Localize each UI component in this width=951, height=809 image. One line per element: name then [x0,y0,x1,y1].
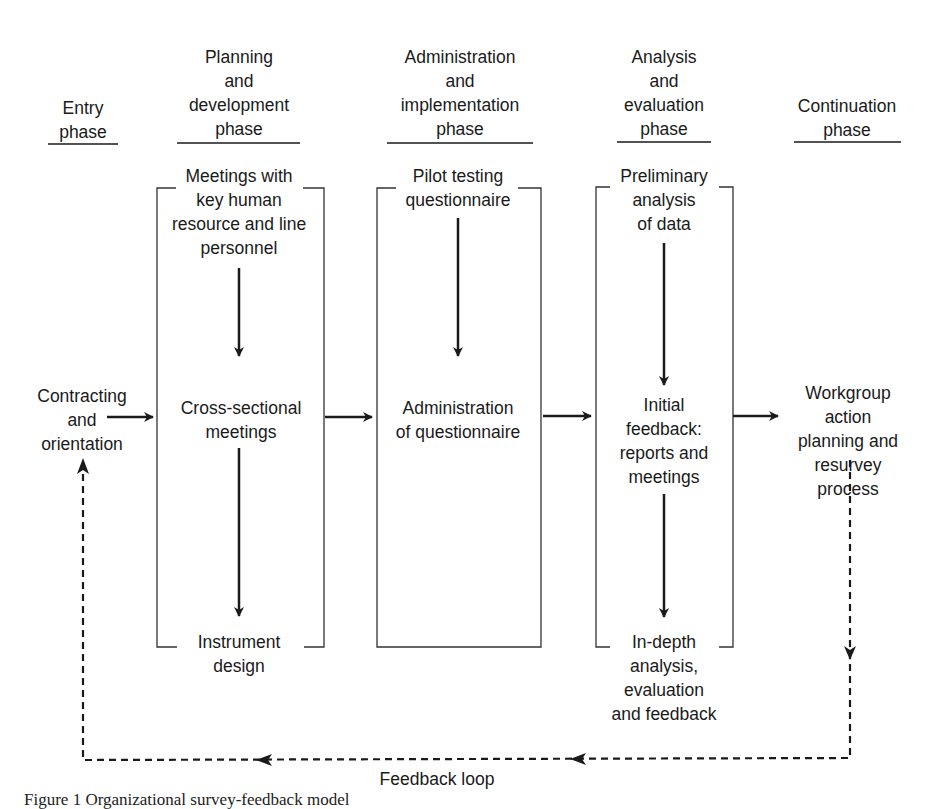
phase-label-analysis: Analysis and evaluation phase [624,45,704,141]
figure-caption: Figure 1 Organizational survey-feedback … [24,790,349,809]
phase-underlines [48,142,901,144]
node-initial-feedback: Initial feedback: reports and meetings [620,393,709,489]
feedback-loop-label: Feedback loop [380,767,495,791]
feedback-loop-arrowheads [77,458,856,766]
node-pilot-testing: Pilot testing questionnaire [405,164,510,212]
phase-label-entry: Entry phase [59,96,107,144]
node-contracting: Contracting and orientation [37,384,127,456]
survey-feedback-diagram: Entry phase Planning and development pha… [0,0,951,809]
node-administration-questionnaire: Administration of questionnaire [396,396,521,444]
node-instrument-design: Instrument design [198,630,281,678]
node-in-depth-analysis: In-depth analysis, evaluation and feedba… [611,630,716,726]
phase-label-continuation: Continuation phase [798,94,896,142]
phase-label-planning: Planning and development phase [189,45,289,141]
feedback-loop [83,460,850,760]
node-meetings-key-personnel: Meetings with key human resource and lin… [172,164,306,260]
node-cross-sectional-meetings: Cross-sectional meetings [181,396,302,444]
node-workgroup-action: Workgroup action planning and resurvey p… [797,381,900,501]
phase-label-administration: Administration and implementation phase [401,45,520,141]
node-preliminary-analysis: Preliminary analysis of data [620,164,708,236]
